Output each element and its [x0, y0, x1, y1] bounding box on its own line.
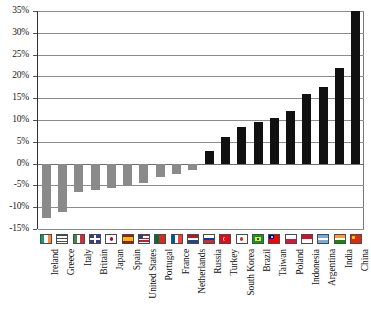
x-axis-label: Russia [213, 249, 223, 274]
flag-icon-indonesia [301, 234, 313, 244]
flag-icon-china [350, 234, 362, 244]
x-axis-label: France [181, 249, 191, 274]
plot-area [38, 11, 364, 229]
flag-icon-russia [203, 234, 215, 244]
y-tick-label: 30% [12, 28, 29, 38]
flag-icon-greece [56, 234, 68, 244]
bar-chart: 35%30%25%20%15%10%5%0%-5%-10%-15% Irelan… [0, 0, 371, 313]
x-axis-label: Spain [132, 249, 142, 270]
bar [221, 137, 230, 163]
flag-icon-netherlands [187, 234, 199, 244]
bar [42, 164, 51, 219]
gridline [38, 33, 364, 34]
bar [351, 11, 360, 164]
flag-icon-ireland [40, 234, 52, 244]
gridline [38, 229, 364, 230]
flag-icon-france [171, 234, 183, 244]
flag-icon-poland [285, 234, 297, 244]
x-axis-label: Portugal [164, 249, 174, 280]
gridline [38, 120, 364, 121]
x-axis-label: Argentina [327, 249, 337, 286]
flag-icon-argentina [317, 234, 329, 244]
flag-icon-taiwan [268, 234, 280, 244]
y-tick-label: 0% [17, 159, 29, 169]
y-tick-label: 20% [12, 72, 29, 82]
flag-icon-india [334, 234, 346, 244]
bar [123, 164, 132, 186]
bar [254, 122, 263, 163]
x-axis-label: Brazil [262, 249, 272, 272]
y-tick-label: 5% [17, 137, 29, 147]
flag-icon-brazil [252, 234, 264, 244]
gridline [38, 98, 364, 99]
bar [74, 164, 83, 192]
bar [237, 127, 246, 164]
x-axis-label: Ireland [50, 249, 60, 275]
x-axis-label: India [344, 249, 354, 268]
y-tick-label: 25% [12, 50, 29, 60]
flag-icon-south-korea [236, 234, 248, 244]
bar [139, 164, 148, 184]
flag-icon-turkey [219, 234, 231, 244]
y-tick-label: 15% [12, 93, 29, 103]
x-axis-label: Poland [295, 249, 305, 275]
flag-icon-united-states [138, 234, 150, 244]
x-axis-labels: IrelandGreeceItalyBritainJapanSpainUnite… [38, 249, 364, 313]
x-axis-label: Indonesia [311, 249, 321, 285]
gridline [38, 142, 364, 143]
bar [286, 111, 295, 163]
flag-icon-italy [73, 234, 85, 244]
flag-icon-portugal [154, 234, 166, 244]
bar [335, 68, 344, 164]
bar [270, 118, 279, 164]
x-axis-label: Greece [66, 249, 76, 275]
gridline [38, 76, 364, 77]
x-axis-label: Turkey [229, 249, 239, 276]
zero-line [38, 164, 364, 165]
bar [319, 87, 328, 163]
y-tick-label: -15% [9, 224, 29, 234]
bar [91, 164, 100, 190]
flag-icon-britain [89, 234, 101, 244]
x-axis-label: Netherlands [197, 249, 207, 294]
x-axis-label: Japan [115, 249, 125, 270]
y-tick-label: -5% [14, 181, 29, 191]
y-tick-label: 10% [12, 115, 29, 125]
gridline [38, 185, 364, 186]
flag-icon-japan [105, 234, 117, 244]
x-axis-label: United States [148, 249, 158, 299]
bar [107, 164, 116, 188]
y-axis: 35%30%25%20%15%10%5%0%-5%-10%-15% [0, 0, 33, 240]
bar [172, 164, 181, 175]
x-axis-label: China [360, 249, 370, 271]
x-axis-label: Britain [99, 249, 109, 275]
x-axis-label: Italy [83, 249, 93, 266]
gridline [38, 55, 364, 56]
flag-icon-spain [122, 234, 134, 244]
bar [205, 151, 214, 164]
x-axis-label: Taiwan [278, 249, 288, 276]
bar [156, 164, 165, 177]
y-tick-label: 35% [12, 6, 29, 16]
flag-row [38, 234, 364, 246]
bar [58, 164, 67, 212]
y-tick-mark [33, 229, 37, 230]
y-tick-label: -10% [9, 202, 29, 212]
gridline [38, 207, 364, 208]
bar [188, 164, 197, 171]
gridline [38, 11, 364, 12]
x-axis-label: South Korea [246, 249, 256, 296]
bar [302, 94, 311, 164]
